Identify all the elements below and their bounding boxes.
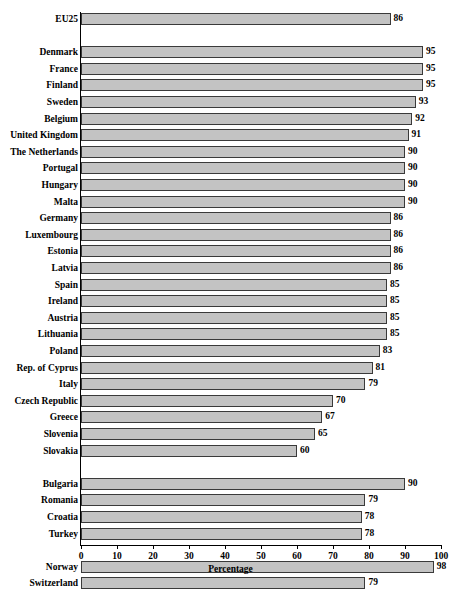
category-label: EU25 [0,13,81,25]
bar-row: Turkey78 [0,528,461,540]
bar-row: Croatia78 [0,511,461,523]
x-axis-tick-label: 90 [390,550,420,562]
x-axis-title: Percentage [0,563,461,575]
category-label: Malta [0,196,81,208]
bar [81,295,387,307]
bar-row: Hungary90 [0,179,461,191]
bar-row: Portugal90 [0,162,461,174]
category-label: Estonia [0,245,81,257]
bar [81,46,423,58]
bar-row: Romania79 [0,494,461,506]
bar-value-label: 81 [376,360,386,374]
bar [81,411,322,423]
category-label: Romania [0,494,81,506]
x-axis-tick-label: 60 [282,550,312,562]
bar-row: Finland95 [0,79,461,91]
bar [81,245,391,257]
category-label: Poland [0,345,81,357]
bar [81,328,387,340]
bar-value-label: 78 [365,509,375,523]
bar-value-label: 86 [394,227,404,241]
bar [81,96,416,108]
category-label: Rep. of Cyprus [0,362,81,374]
bar-value-label: 86 [394,210,404,224]
bar-row: The Netherlands90 [0,146,461,158]
bar [81,212,391,224]
category-label: Spain [0,279,81,291]
bar-value-label: 92 [415,111,425,125]
category-label: France [0,63,81,75]
bar-value-label: 79 [368,376,378,390]
bar [81,13,391,25]
x-axis-tick [153,545,154,549]
category-label: Ireland [0,295,81,307]
category-label: Turkey [0,528,81,540]
category-label: Austria [0,312,81,324]
bar-value-label: 93 [419,94,429,108]
bar-row: Slovakia60 [0,445,461,457]
category-label: Luxembourg [0,229,81,241]
category-label: Portugal [0,162,81,174]
bar [81,196,405,208]
bar-value-label: 90 [408,177,418,191]
bar-value-label: 67 [325,409,335,423]
x-axis-tick-label: 30 [174,550,204,562]
category-label: Croatia [0,511,81,523]
bar-row: Latvia86 [0,262,461,274]
category-label: Slovenia [0,428,81,440]
bar-row: Denmark95 [0,46,461,58]
bar-row: Malta90 [0,196,461,208]
bar-row: France95 [0,63,461,75]
bar-value-label: 90 [408,144,418,158]
x-axis-tick-label: 10 [102,550,132,562]
bar-row: Spain85 [0,279,461,291]
bar [81,511,362,523]
bar-value-label: 78 [365,526,375,540]
category-label: Sweden [0,96,81,108]
bar [81,345,380,357]
bar-value-label: 79 [368,492,378,506]
bar-value-label: 85 [390,326,400,340]
x-axis-tick-label: 100 [426,550,456,562]
bar-row: Poland83 [0,345,461,357]
bar-row: Rep. of Cyprus81 [0,362,461,374]
x-axis-tick-label: 20 [138,550,168,562]
x-axis-tick [369,545,370,549]
category-label: Lithuania [0,328,81,340]
bar-row: Slovenia65 [0,428,461,440]
bar [81,63,423,75]
bar [81,312,387,324]
category-label: Czech Republic [0,395,81,407]
bar-row: United Kingdom91 [0,129,461,141]
bar [81,129,409,141]
bar-value-label: 91 [412,127,422,141]
bar [81,362,373,374]
category-label: Belgium [0,113,81,125]
bar-row: EU2586 [0,13,461,25]
bar [81,146,405,158]
bar [81,528,362,540]
category-label: Finland [0,79,81,91]
bar-value-label: 95 [426,61,436,75]
x-axis-tick [333,545,334,549]
bar [81,179,405,191]
bar [81,494,365,506]
bar-value-label: 70 [336,393,346,407]
bar-row: Germany86 [0,212,461,224]
x-axis-tick [225,545,226,549]
x-axis-tick [261,545,262,549]
category-label: Slovakia [0,445,81,457]
bar-row: Belgium92 [0,113,461,125]
category-label: United Kingdom [0,129,81,141]
x-axis-tick-label: 50 [246,550,276,562]
category-label: The Netherlands [0,146,81,158]
bar-value-label: 90 [408,194,418,208]
x-axis-tick [189,545,190,549]
x-axis-tick [405,545,406,549]
x-axis-tick [117,545,118,549]
x-axis-tick-label: 70 [318,550,348,562]
bar-value-label: 95 [426,77,436,91]
category-label: Bulgaria [0,478,81,490]
x-axis-tick [441,545,442,549]
bar-row: Switzerland79 [0,577,461,589]
